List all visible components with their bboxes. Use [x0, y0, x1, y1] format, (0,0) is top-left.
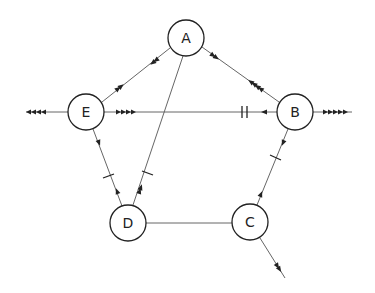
arrowheads: [26, 52, 348, 274]
node-label-c: C: [232, 204, 268, 240]
edge-c-out: [260, 238, 285, 278]
graph-diagram: A B C D E: [0, 0, 375, 293]
node-label-e: E: [68, 94, 104, 130]
edge-a-e: [102, 48, 170, 102]
node-label-a: A: [168, 20, 204, 56]
edge-a-d: [133, 56, 183, 205]
node-label-d: D: [110, 205, 146, 241]
tick-marks: [103, 106, 281, 178]
node-label-b: B: [277, 94, 313, 130]
